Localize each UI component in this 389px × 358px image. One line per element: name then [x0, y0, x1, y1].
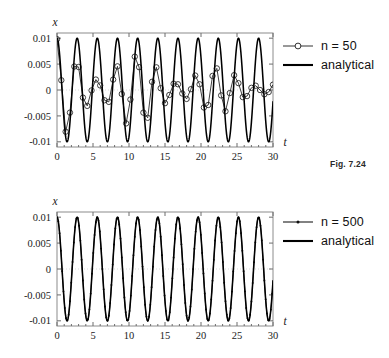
legend-row-n500: n = 500	[282, 212, 374, 231]
svg-text:30: 30	[268, 330, 279, 341]
figure-caption-7-24: Fig. 7.24	[330, 159, 366, 169]
svg-text:x: x	[51, 195, 58, 207]
svg-text:0.005: 0.005	[27, 59, 51, 70]
svg-text:0: 0	[54, 330, 59, 341]
svg-text:0: 0	[46, 264, 51, 275]
svg-text:20: 20	[196, 151, 207, 162]
svg-text:25: 25	[232, 151, 243, 162]
legend-label-analytical: analytical	[321, 58, 374, 72]
figure-page: 051015202530-0.01-0.00500.0050.01xt n = …	[0, 0, 389, 358]
figure-7-25: 051015202530-0.01-0.00500.0050.01xt n = …	[0, 180, 389, 358]
legend-n50: n = 50 analytical	[282, 36, 374, 74]
svg-text:0: 0	[46, 85, 51, 96]
svg-text:15: 15	[160, 330, 171, 341]
legend-label-analytical: analytical	[321, 234, 374, 248]
svg-text:20: 20	[196, 330, 207, 341]
svg-text:10: 10	[124, 330, 135, 341]
legend-marker-line-icon	[282, 39, 314, 53]
svg-text:10: 10	[124, 151, 135, 162]
plot-canvas-n50: 051015202530-0.01-0.00500.0050.01xt	[0, 0, 389, 180]
svg-text:25: 25	[232, 330, 243, 341]
svg-text:0.005: 0.005	[27, 238, 51, 249]
svg-text:x: x	[51, 16, 58, 28]
svg-text:t: t	[283, 315, 287, 327]
legend-label-n50: n = 50	[321, 39, 357, 53]
legend-solid-line-icon	[282, 58, 314, 72]
svg-text:t: t	[283, 136, 287, 148]
svg-text:5: 5	[90, 151, 95, 162]
legend-row-analytical: analytical	[282, 231, 374, 250]
svg-text:-0.01: -0.01	[29, 136, 51, 147]
svg-text:15: 15	[160, 151, 171, 162]
legend-n500: n = 500 analytical	[282, 212, 374, 250]
legend-row-analytical: analytical	[282, 55, 374, 74]
svg-text:0.01: 0.01	[33, 33, 51, 44]
svg-text:0.01: 0.01	[33, 212, 51, 223]
svg-text:-0.005: -0.005	[24, 290, 51, 301]
svg-text:-0.005: -0.005	[24, 111, 51, 122]
svg-text:-0.01: -0.01	[29, 315, 51, 326]
legend-solid-line-icon	[282, 234, 314, 248]
svg-text:30: 30	[268, 151, 279, 162]
legend-label-n500: n = 500	[321, 215, 364, 229]
svg-text:5: 5	[90, 330, 95, 341]
legend-row-n50: n = 50	[282, 36, 374, 55]
plot-canvas-n500: 051015202530-0.01-0.00500.0050.01xt	[0, 180, 389, 358]
figure-7-24: 051015202530-0.01-0.00500.0050.01xt n = …	[0, 0, 389, 180]
legend-marker-line-icon	[282, 215, 314, 229]
svg-text:0: 0	[54, 151, 59, 162]
